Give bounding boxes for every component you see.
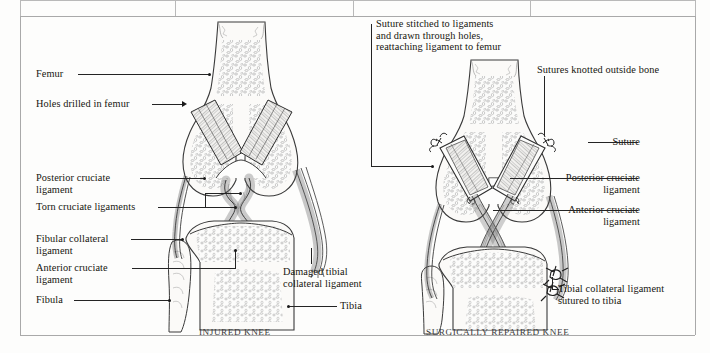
- label-fibula: Fibula: [36, 294, 63, 306]
- leader-posterior-cruciate-repaired: [510, 178, 638, 179]
- leader-fibular-collateral: [131, 239, 183, 240]
- leader-dot-torn-b: [234, 206, 237, 209]
- femur-marrow-upper: [216, 40, 266, 96]
- label-posterior-cruciate-ligament: Posterior cruciate ligament: [36, 172, 110, 195]
- leader-dot-anterior-cruciate: [234, 249, 237, 252]
- leader-suture: [588, 142, 638, 143]
- leader-dot-suture-note: [431, 165, 434, 168]
- leader-dot-torn-a: [239, 192, 242, 195]
- tibia-plateau-marrow: [196, 226, 290, 262]
- leader-tibia: [289, 306, 337, 307]
- leader-dot-femur: [208, 73, 211, 76]
- leader-dot-posterior-cruciate: [203, 177, 206, 180]
- label-posterior-cruciate-ligament-repaired: Posterior cruciate ligament: [523, 172, 640, 195]
- leader-anterior-cruciate: [132, 268, 236, 269]
- caption-surgically-repaired-knee: SURGICALLY REPAIRED KNEE: [426, 327, 569, 337]
- repaired-knee-figure: [421, 60, 568, 334]
- leader-tcl-sutured-foot: [552, 289, 559, 290]
- leader-dot-tibia: [287, 305, 290, 308]
- label-anterior-cruciate-ligament: Anterior cruciate ligament: [36, 262, 108, 285]
- leader-anterior-cruciate-repaired: [493, 210, 638, 211]
- leader-suture-note-riser: [371, 24, 372, 167]
- leader-suture-note-foot: [371, 166, 433, 167]
- leader-arrow-holes-drilled: [182, 101, 187, 107]
- leader-holes-drilled: [152, 104, 183, 105]
- label-tibial-collateral-ligament-sutured: Tibial collateral ligament sutured to ti…: [558, 283, 664, 306]
- label-femur: Femur: [36, 68, 63, 80]
- leader-posterior-cruciate: [140, 178, 205, 179]
- illustration-page: Femur Holes drilled in femur Posterior c…: [0, 0, 710, 353]
- leader-anterior-cruciate-riser: [235, 250, 236, 269]
- label-tibia: Tibia: [340, 300, 362, 312]
- leader-damaged-tcl: [311, 248, 312, 264]
- leader-torn-cruciate-main: [158, 207, 206, 208]
- leader-dot-fibula: [168, 299, 171, 302]
- caption-injured-knee: INJURED KNEE: [199, 327, 271, 337]
- leader-tcl-sutured-riser: [552, 277, 553, 289]
- label-fibular-collateral-ligament: Fibular collateral ligament: [36, 233, 108, 256]
- leader-sutures-knotted: [544, 76, 545, 136]
- leader-fibula: [74, 300, 170, 301]
- label-anterior-cruciate-ligament-repaired: Anterior cruciate ligament: [523, 204, 640, 227]
- leader-torn-cruciate-branch-b: [205, 207, 236, 208]
- tibia-shaft-marrow: [212, 269, 283, 322]
- leader-dot-fibular-collateral: [181, 238, 184, 241]
- leader-torn-cruciate-branch-a: [205, 193, 241, 194]
- label-holes-drilled-in-femur: Holes drilled in femur: [36, 98, 129, 110]
- label-torn-cruciate-ligaments: Torn cruciate ligaments: [36, 201, 135, 213]
- fibula-outline: [168, 240, 190, 332]
- leader-torn-cruciate-bracket: [205, 193, 206, 208]
- leader-femur: [78, 74, 210, 75]
- label-suture-stitched-note: Suture stitched to ligaments and drawn t…: [376, 18, 501, 53]
- label-damaged-tibial-collateral-ligament: Damaged tibial collateral ligament: [283, 266, 362, 289]
- label-sutures-knotted-outside-bone: Sutures knotted outside bone: [537, 64, 659, 76]
